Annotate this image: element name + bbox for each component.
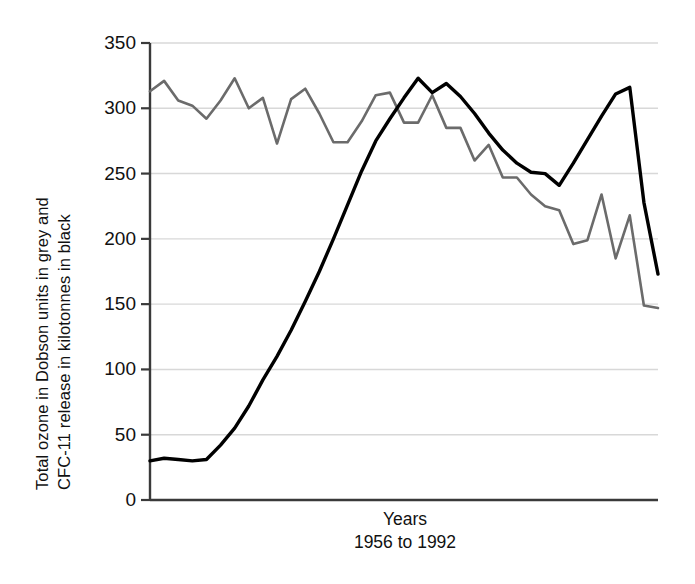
chart-figure: Total ozone in Dobson units in grey and … bbox=[0, 0, 695, 584]
series-line-cfc11 bbox=[150, 78, 658, 461]
gridlines bbox=[150, 43, 658, 435]
axis-lines bbox=[150, 43, 658, 500]
chart-plot-area bbox=[0, 0, 695, 584]
y-axis-tick-marks bbox=[141, 43, 150, 500]
x-axis-title-line-2: 1956 to 1992 bbox=[150, 531, 660, 554]
x-axis-title: Years 1956 to 1992 bbox=[150, 508, 660, 555]
series-line-ozone bbox=[150, 78, 658, 308]
x-axis-title-line-1: Years bbox=[150, 508, 660, 531]
